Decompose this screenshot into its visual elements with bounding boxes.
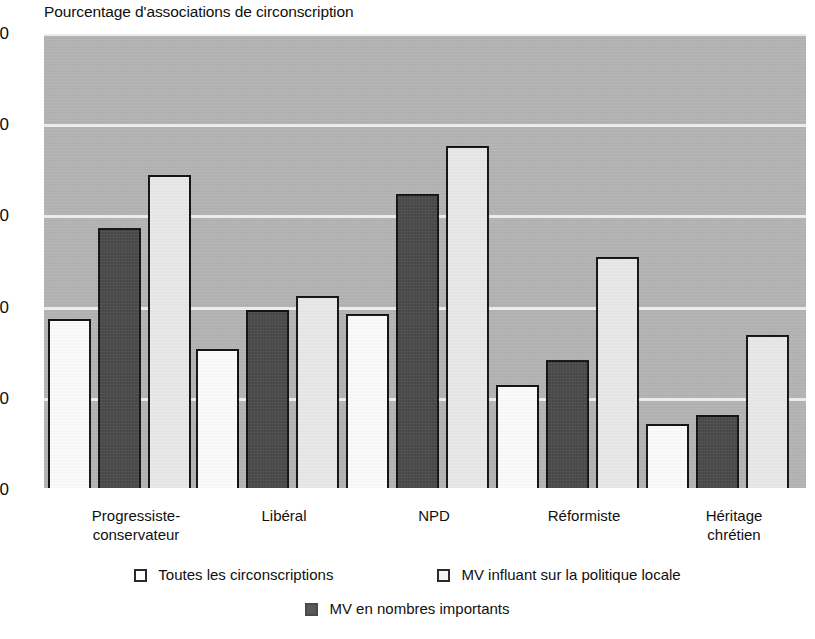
- bar: [196, 349, 239, 490]
- y-tick-label-80: 80: [0, 116, 9, 133]
- legend-row-primary: Toutes les circonscriptionsMV influant s…: [0, 566, 815, 584]
- bar: [246, 310, 289, 490]
- y-tick-label-100: 100: [0, 25, 9, 42]
- bar: [446, 146, 489, 490]
- plot-area: [44, 34, 806, 490]
- white-square-icon: [134, 569, 147, 582]
- legend-item: MV en nombres importants: [305, 600, 509, 618]
- light-gray-square-icon: [437, 569, 450, 582]
- y-tick-label-40: 40: [0, 299, 9, 316]
- bar: [646, 424, 689, 490]
- bar: [296, 296, 339, 490]
- y-tick-label-60: 60: [0, 207, 9, 224]
- bar: [396, 194, 439, 490]
- x-axis-baseline: [44, 488, 807, 491]
- gridline-100: [44, 34, 806, 36]
- bar: [596, 257, 639, 490]
- dark-gray-square-icon: [305, 603, 318, 616]
- x-axis-label: Héritage chrétien: [644, 506, 815, 544]
- bar: [696, 415, 739, 490]
- bar: [148, 175, 191, 490]
- bar: [48, 319, 91, 490]
- legend-item: Toutes les circonscriptions: [134, 566, 333, 584]
- y-tick-label-0: 0: [0, 481, 9, 498]
- chart-title: Pourcentage d'associations de circonscri…: [44, 2, 354, 21]
- bar: [496, 385, 539, 490]
- legend-label: Toutes les circonscriptions: [158, 566, 333, 584]
- y-tick-label-20: 20: [0, 390, 9, 407]
- bar: [98, 228, 141, 490]
- bar: [546, 360, 589, 490]
- legend-label: MV en nombres importants: [329, 600, 509, 618]
- legend-row-secondary: MV en nombres importants: [0, 600, 815, 618]
- bar: [746, 335, 789, 490]
- legend-item: MV influant sur la politique locale: [437, 566, 680, 584]
- bar-chart-figure: Pourcentage d'associations de circonscri…: [0, 0, 815, 639]
- legend-label: MV influant sur la politique locale: [461, 566, 680, 584]
- gridline-80: [44, 124, 806, 127]
- bar: [346, 314, 389, 490]
